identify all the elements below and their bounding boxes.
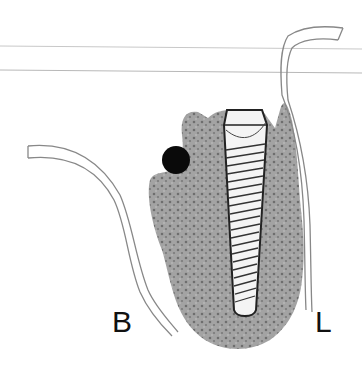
dental-implant-diagram: B L [0,0,362,370]
buccal-gingiva [28,145,178,332]
nerve-canal [162,146,190,174]
label-buccal: B [112,305,132,339]
guide-line-lower [0,70,362,73]
guide-line-upper [0,46,362,49]
diagram-graphic [0,0,362,370]
label-lingual: L [315,305,332,339]
